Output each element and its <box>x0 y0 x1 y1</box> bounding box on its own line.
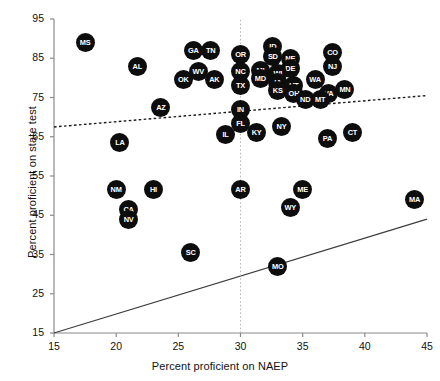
y-tick-label: 95 <box>20 12 44 24</box>
plot-canvas <box>0 0 440 381</box>
data-point-nj[interactable]: NJ <box>323 57 342 76</box>
data-point-al[interactable]: AL <box>128 57 147 76</box>
data-point-tn[interactable]: TN <box>201 41 220 60</box>
data-point-mo[interactable]: MO <box>268 257 287 276</box>
data-point-nm[interactable]: NM <box>107 180 126 199</box>
x-axis-title: Percent proficient on NAEP <box>0 360 440 372</box>
y-tick-label: 85 <box>20 51 44 63</box>
data-point-ms[interactable]: MS <box>76 33 95 52</box>
scatter-plot: 152535455565758595 15202530354045 MSALGA… <box>0 0 440 381</box>
data-point-nv[interactable]: NV <box>119 210 138 229</box>
data-point-or[interactable]: OR <box>231 45 250 64</box>
y-tick-label: 15 <box>20 326 44 338</box>
data-point-ma[interactable]: MA <box>405 190 424 209</box>
x-tick-label: 35 <box>288 340 318 352</box>
x-tick-label: 20 <box>101 340 131 352</box>
data-point-md[interactable]: MD <box>251 69 270 88</box>
data-point-mt[interactable]: MT <box>311 90 330 109</box>
x-tick-label: 15 <box>39 340 69 352</box>
x-tick-label: 30 <box>226 340 256 352</box>
x-tick-label: 40 <box>350 340 380 352</box>
data-point-ga[interactable]: GA <box>184 41 203 60</box>
x-tick-label: 25 <box>163 340 193 352</box>
identity-line <box>54 219 427 333</box>
data-point-wy[interactable]: WY <box>281 198 300 217</box>
y-tick-label: 25 <box>20 287 44 299</box>
y-axis-title: Percent proficient on state test <box>26 82 38 282</box>
x-tick-label: 45 <box>412 340 440 352</box>
